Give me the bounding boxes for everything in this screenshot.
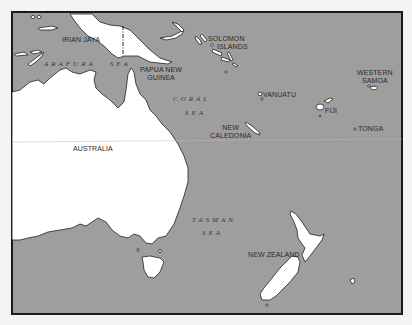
label-tasman-line2: SEA (192, 229, 236, 237)
label-caledonia-line1: NEW (210, 124, 251, 132)
label-samoa-line2: SAMOA (357, 77, 393, 85)
label-coral-line2: SEA (173, 109, 210, 117)
label-solomon-line2: ISLANDS (205, 43, 248, 51)
label-coral-line1: CORAL (173, 95, 210, 103)
label-png-line2: GUINEA (140, 74, 182, 82)
label-tasman-line1: TASMAN (192, 216, 236, 224)
fiji-viti-levu (316, 104, 324, 110)
label-new-zealand: NEW ZEALAND (248, 251, 300, 259)
samoa-island (371, 86, 378, 90)
label-tonga: TONGA (358, 125, 383, 133)
label-new-caledonia: NEW CALEDONIA (210, 124, 251, 140)
label-samoa-line1: WESTERN (357, 69, 393, 77)
label-papua-new-guinea: PAPUA NEW GUINEA (140, 66, 182, 82)
tonga-island (354, 128, 357, 130)
label-australia: AUSTRALIA (73, 145, 113, 153)
label-solomon-islands: SOLOMON ISLANDS (205, 35, 248, 51)
label-tasman-sea: TASMAN SEA (192, 216, 236, 237)
label-png-line1: PAPUA NEW (140, 66, 182, 74)
label-irian-jaya: IRIAN JAYA (62, 36, 100, 44)
label-vanuatu: VANUATU (263, 91, 296, 99)
vanuatu-island (258, 92, 262, 96)
label-western-samoa: WESTERN SAMOA (357, 69, 393, 85)
label-caledonia-line2: CALEDONIA (210, 132, 251, 140)
label-coral-sea: CORAL SEA (173, 95, 210, 117)
label-fiji: FIJI (325, 107, 337, 115)
label-arafura-sea: ARAFURA SEA (44, 60, 131, 68)
label-solomon-line1: SOLOMON (205, 35, 248, 43)
